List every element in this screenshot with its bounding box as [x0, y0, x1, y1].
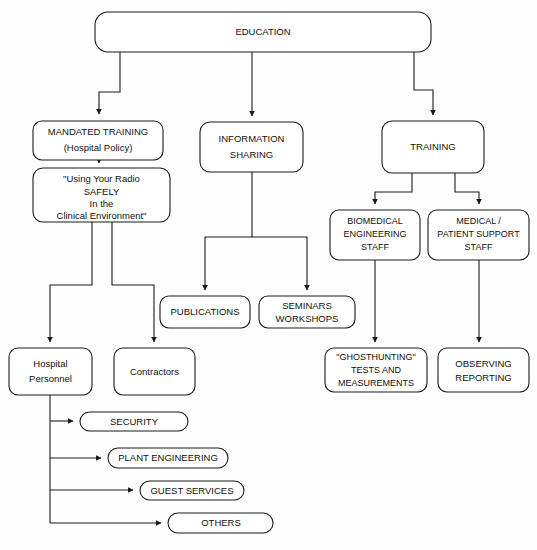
- connector-using-radio-to-contractors: [112, 222, 154, 342]
- node-information-sharing[interactable]: INFORMATION SHARING: [200, 122, 303, 172]
- node-using-radio-line3: In the: [90, 198, 114, 209]
- flowchart-canvas: EDUCATION MANDATED TRAINING (Hospital Po…: [0, 0, 537, 550]
- node-publications-label: PUBLICATIONS: [171, 306, 240, 317]
- node-security-label: SECURITY: [110, 416, 159, 427]
- node-training[interactable]: TRAINING: [382, 121, 484, 173]
- node-information-sharing-line1: INFORMATION: [219, 133, 285, 144]
- node-observing-reporting[interactable]: OBSERVING REPORTING: [438, 348, 529, 392]
- node-biomedical-line1: BIOMEDICAL: [347, 216, 403, 226]
- node-ghosthunting-line1: "GHOSTHUNTING": [336, 352, 415, 362]
- node-hospital-personnel-line2: Personnel: [29, 373, 72, 384]
- node-mandated-training-line1: MANDATED TRAINING: [48, 126, 148, 137]
- connector-training-to-medical-staff: [455, 173, 479, 204]
- node-guest-services-label: GUEST SERVICES: [150, 485, 233, 496]
- node-others[interactable]: OTHERS: [168, 513, 273, 533]
- node-plant-engineering[interactable]: PLANT ENGINEERING: [108, 448, 228, 468]
- node-medical-line3: STAFF: [465, 242, 493, 252]
- node-others-label: OTHERS: [201, 517, 241, 528]
- node-education[interactable]: EDUCATION: [95, 12, 431, 52]
- node-contractors-label: Contractors: [130, 366, 179, 377]
- connector-using-radio-to-hospital-personnel: [50, 222, 92, 342]
- node-medical-line2: PATIENT SUPPORT: [437, 229, 520, 239]
- node-education-label: EDUCATION: [235, 26, 290, 37]
- node-observing-reporting-line1: OBSERVING: [455, 358, 511, 369]
- node-contractors[interactable]: Contractors: [114, 348, 195, 395]
- node-using-radio-line1: "Using Your Radio: [63, 173, 140, 184]
- node-seminars-workshops[interactable]: SEMINARS WORKSHOPS: [259, 296, 355, 328]
- flowchart-svg: EDUCATION MANDATED TRAINING (Hospital Po…: [0, 0, 537, 550]
- node-hospital-personnel[interactable]: Hospital Personnel: [9, 348, 92, 395]
- connector-information-sharing-to-seminars: [252, 237, 307, 290]
- node-medical-patient-support-staff[interactable]: MEDICAL / PATIENT SUPPORT STAFF: [428, 210, 529, 260]
- node-hospital-personnel-line1: Hospital: [33, 358, 67, 369]
- node-mandated-training-line2: (Hospital Policy): [64, 142, 133, 153]
- node-information-sharing-line2: SHARING: [230, 149, 273, 160]
- node-guest-services[interactable]: GUEST SERVICES: [140, 481, 244, 500]
- node-using-radio-line2: SAFELY: [84, 186, 120, 197]
- node-ghosthunting-line2: TESTS AND: [351, 365, 402, 375]
- node-seminars-line2: WORKSHOPS: [276, 313, 339, 324]
- node-biomedical-engineering-staff[interactable]: BIOMEDICAL ENGINEERING STAFF: [330, 210, 420, 260]
- node-hospital-personnel-shape: [9, 348, 92, 395]
- connector-education-to-mandated-training: [99, 52, 120, 114]
- connector-education-to-training: [414, 52, 433, 115]
- node-biomedical-line3: STAFF: [361, 242, 389, 252]
- node-training-label: TRAINING: [410, 141, 455, 152]
- node-biomedical-line2: ENGINEERING: [343, 229, 406, 239]
- node-observing-reporting-shape: [438, 348, 529, 392]
- node-plant-engineering-label: PLANT ENGINEERING: [118, 452, 218, 463]
- node-ghosthunting-tests[interactable]: "GHOSTHUNTING" TESTS AND MEASUREMENTS: [325, 348, 427, 392]
- node-seminars-line1: SEMINARS: [282, 300, 332, 311]
- node-ghosthunting-line3: MEASUREMENTS: [338, 378, 414, 388]
- node-information-sharing-shape: [200, 122, 303, 172]
- connector-training-to-biomedical-staff: [375, 173, 412, 204]
- node-using-radio-line4: Clinical Environment": [57, 210, 147, 221]
- node-mandated-training[interactable]: MANDATED TRAINING (Hospital Policy): [33, 121, 163, 160]
- node-medical-line1: MEDICAL /: [456, 216, 501, 226]
- node-publications[interactable]: PUBLICATIONS: [160, 296, 250, 328]
- connector-information-sharing-to-publications: [205, 172, 252, 290]
- node-security[interactable]: SECURITY: [80, 412, 188, 431]
- node-observing-reporting-line2: REPORTING: [455, 372, 511, 383]
- node-using-your-radio-safely[interactable]: "Using Your Radio SAFELY In the Clinical…: [33, 168, 170, 222]
